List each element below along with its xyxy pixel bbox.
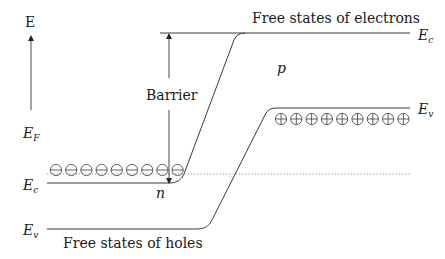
right-ec-label: Ec <box>418 27 433 43</box>
electron-symbol <box>50 164 61 175</box>
left-ev-label: Ev <box>23 222 38 238</box>
free-states-electrons-label: Free states of electrons <box>252 11 420 25</box>
right-ec-main: E <box>418 27 428 43</box>
free-states-holes-label: Free states of holes <box>63 236 203 250</box>
electron-symbol <box>111 164 122 175</box>
hole-symbol <box>275 113 286 124</box>
left-ec-sub: c <box>33 185 38 195</box>
right-ev-sub: v <box>428 109 433 119</box>
fermi-level-label: EF <box>23 125 39 141</box>
hole-symbol <box>383 113 394 124</box>
p-region-label: p <box>277 61 286 75</box>
hole-symbol <box>291 113 302 124</box>
hole-symbol <box>337 113 348 124</box>
left-ev-sub: v <box>33 230 38 240</box>
left-ec-label: Ec <box>23 177 38 193</box>
electron-symbol <box>126 164 137 175</box>
electron-symbol <box>66 164 77 175</box>
right-ev-label: Ev <box>418 101 433 117</box>
right-ev-main: E <box>418 101 428 117</box>
band-diagram-canvas <box>0 0 445 259</box>
hole-symbol <box>352 113 363 124</box>
fermi-main: E <box>23 125 33 141</box>
barrier-label: Barrier <box>146 88 197 102</box>
pn-junction-band-diagram: E Free states of electrons Ec p Barrier … <box>0 0 445 259</box>
valence-band-edge <box>47 108 410 229</box>
hole-symbol <box>321 113 332 124</box>
right-ec-sub: c <box>428 35 433 45</box>
fermi-sub: F <box>33 133 39 143</box>
left-ec-main: E <box>23 177 33 193</box>
hole-symbol <box>306 113 317 124</box>
holes-row <box>275 113 409 124</box>
left-ev-main: E <box>23 222 33 238</box>
hole-symbol <box>398 113 409 124</box>
n-region-label: n <box>156 186 165 200</box>
energy-axis-label: E <box>25 15 35 29</box>
hole-symbol <box>367 113 378 124</box>
electron-symbol <box>172 164 183 175</box>
